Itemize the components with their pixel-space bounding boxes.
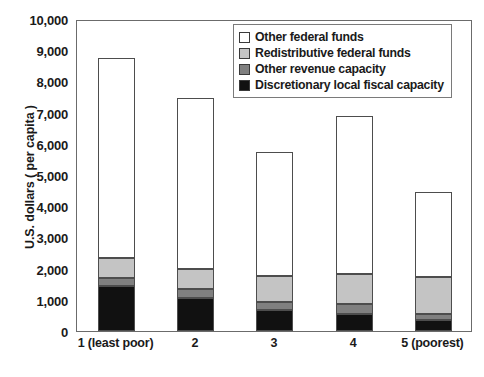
legend-item-label: Redistributive federal funds xyxy=(255,47,411,59)
y-axis-tick-label: 3,000 xyxy=(36,232,68,245)
y-axis-tick-label: 7,000 xyxy=(36,108,68,121)
bar-stack[interactable] xyxy=(336,116,373,331)
bar-segment[interactable] xyxy=(177,98,214,270)
y-axis-tick-label: 1,000 xyxy=(36,295,68,308)
bar-segment[interactable] xyxy=(177,298,214,331)
legend-item-label: Discretionary local fiscal capacity xyxy=(255,79,444,91)
y-axis-tick-labels: 10,0009,0008,0007,0006,0005,0004,0003,00… xyxy=(0,0,72,377)
bar-segment[interactable] xyxy=(256,310,293,331)
bar-segment[interactable] xyxy=(336,274,373,303)
bar-segment[interactable] xyxy=(98,58,135,258)
x-axis-tick-labels: 1 (least poor)2345 (poorest) xyxy=(76,336,472,366)
legend-item[interactable]: Other federal funds xyxy=(239,29,444,45)
legend-swatch-icon xyxy=(239,48,250,59)
y-axis-tick-label: 4,000 xyxy=(36,201,68,214)
bar-segment[interactable] xyxy=(415,277,452,314)
bar-segment[interactable] xyxy=(177,269,214,289)
bar-segment[interactable] xyxy=(415,192,452,277)
legend-item-label: Other federal funds xyxy=(255,31,364,43)
y-axis-tick-label: 9,000 xyxy=(36,45,68,58)
bar-segment[interactable] xyxy=(415,320,452,331)
bar-segment[interactable] xyxy=(336,314,373,331)
bar-segment[interactable] xyxy=(336,116,373,274)
bar-stack[interactable] xyxy=(415,192,452,331)
legend-swatch-icon xyxy=(239,80,250,91)
y-axis-tick-label: 6,000 xyxy=(36,139,68,152)
y-axis-tick-label: 5,000 xyxy=(36,170,68,183)
legend-item[interactable]: Other revenue capacity xyxy=(239,61,444,77)
bar-stack[interactable] xyxy=(256,152,293,331)
bar-stack[interactable] xyxy=(98,58,135,331)
x-axis-tick-label: 2 xyxy=(155,336,234,350)
x-axis-tick-label: 3 xyxy=(234,336,313,350)
legend-item[interactable]: Discretionary local fiscal capacity xyxy=(239,77,444,93)
legend-item-label: Other revenue capacity xyxy=(255,63,386,75)
x-axis-tick-label: 5 (poorest) xyxy=(393,336,472,350)
chart-legend: Other federal fundsRedistributive federa… xyxy=(233,24,452,98)
bar-segment[interactable] xyxy=(256,302,293,309)
y-axis-tick-label: 2,000 xyxy=(36,264,68,277)
y-axis-tick-label: 0 xyxy=(61,326,68,339)
stacked-bar-chart: U.S. dollars ( per capita ) 10,0009,0008… xyxy=(0,0,484,377)
bar-segment[interactable] xyxy=(415,314,452,321)
bar-segment[interactable] xyxy=(177,289,214,298)
legend-item[interactable]: Redistributive federal funds xyxy=(239,45,444,61)
x-axis-tick-label: 4 xyxy=(314,336,393,350)
y-axis-tick-label: 10,000 xyxy=(29,14,68,27)
y-axis-tick-label: 8,000 xyxy=(36,76,68,89)
bar-segment[interactable] xyxy=(98,258,135,278)
bar-segment[interactable] xyxy=(336,304,373,315)
bar-segment[interactable] xyxy=(98,278,135,286)
bar-stack[interactable] xyxy=(177,98,214,331)
bar-group xyxy=(77,21,156,331)
bar-segment[interactable] xyxy=(256,276,293,302)
legend-swatch-icon xyxy=(239,32,250,43)
x-axis-tick-label: 1 (least poor) xyxy=(76,336,155,350)
legend-swatch-icon xyxy=(239,64,250,75)
bar-segment[interactable] xyxy=(256,152,293,277)
bar-group xyxy=(156,21,235,331)
bar-segment[interactable] xyxy=(98,286,135,331)
